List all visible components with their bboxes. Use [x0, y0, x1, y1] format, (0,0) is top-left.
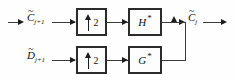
- upsampler-top-factor: 2: [94, 17, 99, 28]
- filter-g-block[interactable]: G*: [128, 46, 162, 74]
- input-label-detail: ~ D j+1: [27, 49, 45, 61]
- input-approx-subscript: j+1: [34, 18, 44, 26]
- filter-g-symbol: G: [138, 54, 146, 66]
- filter-g-label: G*: [138, 54, 151, 66]
- output-label-approx: ~ C j: [188, 11, 197, 23]
- output-approx-subscript: j: [195, 18, 197, 26]
- wire-g-to-riser: [162, 60, 186, 61]
- output-arrowhead: [221, 19, 227, 25]
- filter-h-label: H*: [138, 16, 151, 28]
- filter-g-superscript: *: [147, 51, 152, 61]
- input-label-approx: ~ C j+1: [27, 11, 45, 23]
- tilde-accent-icon-output: ~: [188, 6, 195, 16]
- input-stub-arrowhead-top: [18, 19, 24, 25]
- filter-h-superscript: *: [147, 13, 152, 23]
- filter-h-symbol: H: [138, 16, 146, 28]
- up-arrow-icon-bottom: [85, 52, 92, 69]
- wire-riser-top-feed: [174, 22, 186, 23]
- block-diagram: ~ C j+1 2 H* ~ C j: [0, 0, 235, 82]
- wire-riser-to-junction: [185, 22, 186, 60]
- tilde-accent-icon-detail: ~: [27, 44, 35, 54]
- up-arrow-icon: [85, 14, 92, 31]
- tilde-accent-icon: ~: [27, 6, 34, 16]
- upsampler-bottom-factor: 2: [94, 55, 99, 66]
- upsampler-top-content: 2: [85, 14, 99, 31]
- upsampler-bottom-block[interactable]: 2: [76, 46, 107, 74]
- input-detail-subscript: j+1: [35, 56, 45, 64]
- upsampler-top-block[interactable]: 2: [76, 8, 107, 36]
- upsampler-bottom-content: 2: [85, 52, 99, 69]
- filter-h-block[interactable]: H*: [128, 8, 162, 36]
